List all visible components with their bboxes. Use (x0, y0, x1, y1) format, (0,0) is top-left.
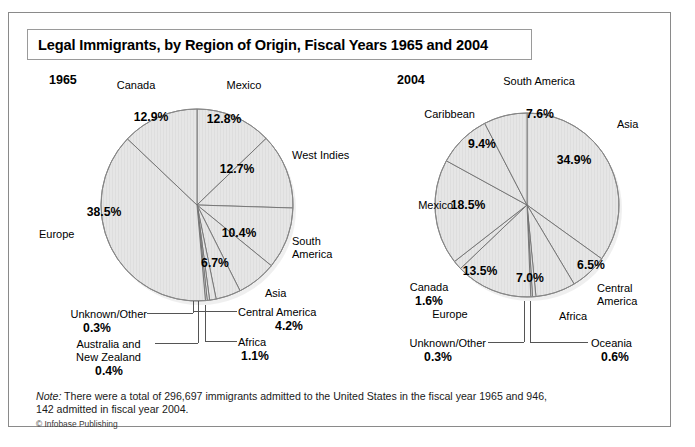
label-2004-europe: Europe (420, 308, 480, 321)
value-1965-canada: 12.9% (121, 110, 181, 124)
figure-frame: Legal Immigrants, by Region of Origin, F… (8, 12, 671, 427)
note-prefix: Note: (36, 390, 61, 402)
value-2004-europe: 13.5% (449, 264, 511, 278)
label-2004-unknown: Unknown/Other (390, 337, 486, 350)
value-2004-unknown: 0.3% (401, 350, 475, 364)
value-2004-oceania: 0.6% (584, 350, 646, 364)
label-1965-canada: Canada (105, 79, 167, 92)
note-body: There were a total of 296,697 immigrants… (36, 390, 547, 415)
label-2004-central-america: Central America (597, 282, 637, 307)
leader-2004-unknown-stem (524, 301, 525, 342)
value-2004-central-america: 6.5% (561, 258, 621, 272)
value-1965-mexico: 12.8% (194, 112, 254, 126)
value-2004-canada: 1.6% (399, 294, 459, 308)
label-1965-unknown: Unknown/Other (53, 308, 147, 321)
label-1965-mexico: Mexico (213, 79, 275, 92)
leader-2004-oceania-stem (530, 301, 531, 342)
value-1965-south-america: 10.4% (209, 226, 269, 240)
chart-title-box: Legal Immigrants, by Region of Origin, F… (27, 29, 532, 60)
value-1965-africa: 1.1% (225, 349, 285, 363)
label-1965-australia-nz: Australia and New Zealand (61, 338, 156, 363)
label-1965-europe: Europe (39, 228, 74, 241)
label-1965-central-america: Central America (238, 306, 316, 319)
leader-1965-central (193, 311, 237, 312)
leader-1965-unknown (147, 313, 193, 314)
value-2004-mexico: 18.5% (437, 198, 499, 212)
leader-2004-unknown (488, 342, 524, 343)
value-2004-asia: 34.9% (539, 153, 609, 167)
label-1965-africa: Africa (238, 336, 266, 349)
value-1965-unknown: 0.3% (61, 321, 133, 335)
label-2004-caribbean: Caribbean (405, 108, 475, 121)
leader-1965-australia-stem (198, 301, 199, 343)
label-2004-oceania: Oceania (591, 337, 632, 350)
page-title: Legal Immigrants, by Region of Origin, F… (38, 37, 488, 53)
value-2004-south-america: 7.6% (509, 107, 571, 121)
leader-1965-africa-stem (205, 305, 206, 341)
leader-1965-africa (205, 341, 237, 342)
label-2004-asia: Asia (617, 118, 638, 131)
panel-year-2004: 2004 (397, 73, 425, 87)
label-1965-west-indies: West Indies (292, 149, 349, 162)
value-1965-west-indies: 12.7% (207, 162, 267, 176)
value-1965-europe: 38.5% (73, 205, 135, 219)
label-2004-canada: Canada (399, 281, 459, 294)
value-1965-asia: 6.7% (185, 256, 245, 270)
panel-year-1965: 1965 (49, 73, 77, 87)
label-1965-south-america: South America (292, 235, 332, 260)
label-2004-africa: Africa (559, 310, 587, 323)
value-1965-central-america: 4.2% (252, 319, 326, 333)
chart-note: Note: There were a total of 296,697 immi… (36, 390, 556, 416)
leader-2004-oceania (530, 342, 588, 343)
label-1965-asia: Asia (265, 287, 286, 300)
credit-line: © Infobase Publishing (36, 419, 118, 429)
leader-1965-australia (155, 343, 198, 344)
value-2004-caribbean: 9.4% (451, 137, 513, 151)
value-1965-australia-nz: 0.4% (66, 364, 152, 378)
label-2004-south-america: South America (484, 75, 594, 88)
leader-1965-central-stem (193, 303, 194, 311)
